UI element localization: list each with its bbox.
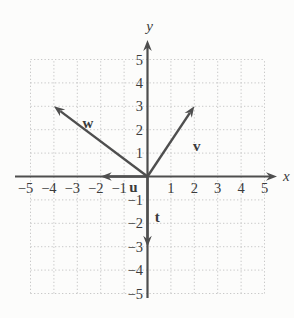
x-axis-label: x (282, 168, 290, 184)
vector-w (60, 111, 147, 176)
y-tick-label: −2 (128, 215, 143, 231)
y-tick-label: 1 (136, 145, 143, 161)
vector-w-label: w (82, 115, 93, 131)
vector-diagram-figure: xy−5−4−3−2−11234554321−1−2−3−4−5wvut (0, 0, 294, 318)
y-tick-label: −4 (128, 262, 144, 278)
y-tick-label: 3 (136, 98, 143, 114)
vector-v (148, 113, 190, 177)
vector-u-label: u (129, 179, 137, 195)
y-tick-label: 4 (136, 75, 144, 91)
x-tick-label: 2 (191, 180, 198, 196)
x-tick-label: −2 (88, 180, 103, 196)
x-tick-label: 3 (214, 180, 221, 196)
coordinate-plane: xy−5−4−3−2−11234554321−1−2−3−4−5wvut (0, 0, 294, 318)
x-tick-label: −4 (41, 180, 57, 196)
x-tick-label: −1 (111, 180, 126, 196)
x-tick-label: 1 (167, 180, 174, 196)
x-tick-label: 4 (237, 180, 245, 196)
vector-t-label: t (155, 209, 160, 225)
y-tick-label: −3 (128, 239, 143, 255)
vector-v-label: v (193, 138, 201, 154)
y-tick-label: 2 (136, 122, 143, 138)
x-tick-label: −3 (65, 180, 80, 196)
vector-v-arrowhead (185, 106, 195, 118)
y-tick-label: −5 (128, 286, 143, 302)
y-axis-label: y (144, 18, 153, 34)
x-tick-label: −5 (18, 180, 33, 196)
y-tick-label: 5 (136, 52, 143, 68)
x-tick-label: 5 (261, 180, 268, 196)
